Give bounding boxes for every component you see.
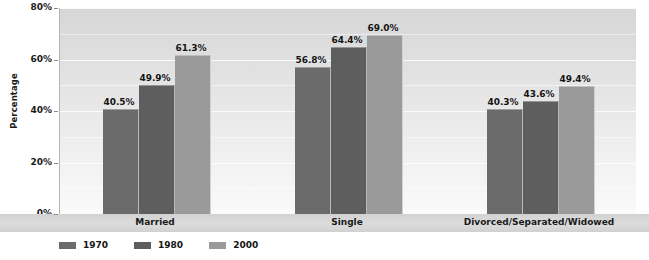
- bar-chart: Percentage 0%20%40%60%80% MarriedSingleD…: [0, 0, 649, 260]
- y-tick-mark: [54, 60, 58, 61]
- bar-1970-divorced-separated-widowed[interactable]: [487, 109, 523, 214]
- category-axis-band: MarriedSingleDivorced/Separated/Widowed: [0, 214, 649, 232]
- y-tick-label: 60%: [16, 54, 52, 64]
- bar-1980-single[interactable]: [331, 47, 367, 214]
- y-tick-label: 40%: [16, 105, 52, 115]
- y-tick-label: 80%: [16, 2, 52, 12]
- bar-1970-married[interactable]: [103, 109, 139, 214]
- bar-value-label: 69.0%: [360, 23, 407, 33]
- y-axis-tick-labels: 0%20%40%60%80%: [0, 0, 52, 214]
- bar-1980-divorced-separated-widowed[interactable]: [523, 101, 559, 214]
- bar-value-label: 64.4%: [324, 35, 371, 45]
- gridline: [60, 8, 636, 9]
- y-tick-mark: [54, 8, 58, 9]
- y-tick-label: 20%: [16, 157, 52, 167]
- y-tick-mark: [54, 111, 58, 112]
- legend-swatch-icon: [134, 242, 151, 249]
- bar-2000-divorced-separated-widowed[interactable]: [559, 86, 595, 214]
- bar-value-label: 49.9%: [132, 73, 179, 83]
- legend-item-2000[interactable]: 2000: [209, 240, 258, 250]
- legend-swatch-icon: [209, 242, 226, 249]
- category-label: Divorced/Separated/Widowed: [443, 217, 635, 227]
- bar-value-label: 56.8%: [288, 55, 335, 65]
- bar-2000-single[interactable]: [367, 35, 403, 214]
- chart-legend: 197019802000: [59, 240, 258, 250]
- legend-item-1980[interactable]: 1980: [134, 240, 183, 250]
- bar-value-label: 61.3%: [168, 43, 215, 53]
- category-label: Single: [251, 217, 443, 227]
- legend-label: 1970: [83, 240, 108, 250]
- bar-1970-single[interactable]: [295, 67, 331, 214]
- legend-swatch-icon: [59, 242, 76, 249]
- legend-label: 2000: [233, 240, 258, 250]
- legend-item-1970[interactable]: 1970: [59, 240, 108, 250]
- legend-label: 1980: [158, 240, 183, 250]
- bar-value-label: 43.6%: [516, 89, 563, 99]
- y-tick-mark: [54, 163, 58, 164]
- bar-value-label: 40.3%: [480, 97, 527, 107]
- bar-value-label: 49.4%: [552, 74, 599, 84]
- bar-1980-married[interactable]: [139, 85, 175, 214]
- y-tick-mark: [54, 214, 58, 215]
- bar-2000-married[interactable]: [175, 55, 211, 214]
- bar-value-label: 40.5%: [96, 97, 143, 107]
- category-label: Married: [59, 217, 251, 227]
